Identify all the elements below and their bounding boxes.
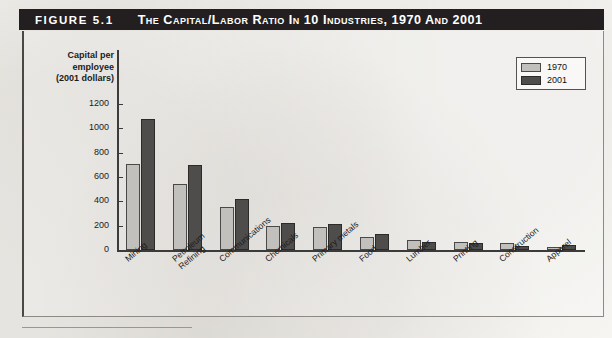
y-axis-title-line-3: (2001 dollars) xyxy=(56,73,114,83)
legend-item-2001[interactable]: 2001 xyxy=(521,74,581,86)
figure-title-bar: FIGURE 5.1 The Capital/Labor Ratio in 10… xyxy=(19,9,604,30)
y-axis-title: Capital per employee (2001 dollars) xyxy=(18,50,114,85)
chart-legend[interactable]: 1970 2001 xyxy=(516,57,586,90)
legend-swatch-2001-icon xyxy=(521,76,541,85)
figure-title-text: The Capital/Labor Ratio in 10 Industries… xyxy=(138,13,483,27)
page-bottom-rule xyxy=(22,327,192,328)
figure-page: FIGURE 5.1 The Capital/Labor Ratio in 10… xyxy=(0,0,612,338)
legend-label-2001: 2001 xyxy=(547,75,567,85)
legend-item-1970[interactable]: 1970 xyxy=(521,61,581,73)
y-axis-title-line-2: employee xyxy=(72,62,114,72)
legend-label-1970: 1970 xyxy=(547,62,567,72)
y-axis-title-line-1: Capital per xyxy=(67,50,114,60)
legend-swatch-1970-icon xyxy=(521,63,541,72)
figure-number-label: FIGURE 5.1 xyxy=(35,14,114,26)
